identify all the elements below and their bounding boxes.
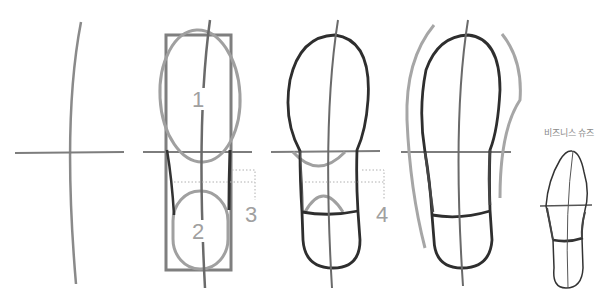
label-toe-number: 1 <box>192 87 204 112</box>
step-3-outline: 4 <box>271 20 388 288</box>
label-measure-4: 4 <box>376 202 388 227</box>
business-shoes-caption: 비즈니스 슈즈 <box>534 126 604 139</box>
label-measure-3: 3 <box>245 202 257 227</box>
label-heel-number: 2 <box>192 219 204 244</box>
step-2-construction: 1 2 3 <box>143 20 257 288</box>
step-1-axis <box>15 22 124 284</box>
step-5-business-shoe <box>540 151 592 288</box>
step-4-final <box>401 20 520 286</box>
shoe-diagram-canvas: 1 2 3 4 <box>0 0 604 299</box>
